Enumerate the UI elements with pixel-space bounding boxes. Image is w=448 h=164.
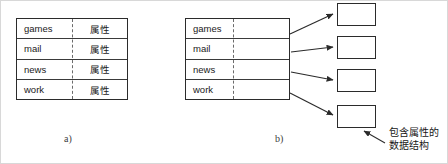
table-b-key-cell: news: [186, 60, 233, 79]
table-row: mail 属性: [17, 39, 127, 59]
data-structure-box: [337, 105, 376, 128]
annotation-line-2: 数据结构: [389, 140, 439, 153]
arrow-row-mail-to-box: [291, 47, 333, 52]
table-b-value-cell: [233, 60, 289, 79]
table-a-value-cell: 属性: [72, 80, 127, 100]
table-row: games: [186, 19, 289, 39]
table-row: mail: [186, 39, 289, 59]
table-a-value-cell: 属性: [72, 19, 127, 38]
annotation-line-1: 包含属性的: [389, 127, 439, 140]
table-b-value-cell: [233, 39, 289, 58]
table-a-value-cell: 属性: [72, 39, 127, 58]
annotation-data-structure: 包含属性的 数据结构: [389, 127, 439, 152]
data-structure-box: [337, 69, 376, 92]
attribute-table-a: games 属性 mail 属性 news 属性 work 属性: [16, 18, 128, 100]
attribute-table-b: games mail news work: [185, 18, 290, 100]
table-a-key-cell: news: [17, 60, 72, 79]
table-b-key-cell: work: [186, 80, 233, 100]
table-b-key-cell: games: [186, 19, 233, 38]
data-structure-box: [337, 3, 376, 26]
caption-b: b): [275, 133, 283, 144]
arrow-row-games-to-box: [290, 14, 333, 34]
table-a-key-cell: games: [17, 19, 72, 38]
table-a-key-cell: mail: [17, 39, 72, 58]
table-a-key-cell: work: [17, 80, 72, 100]
table-b-value-cell: [233, 19, 289, 38]
table-row: work: [186, 80, 289, 100]
data-structure-box: [337, 36, 376, 59]
arrow-row-news-to-box: [291, 72, 333, 80]
table-row: news 属性: [17, 60, 127, 80]
table-b-key-cell: mail: [186, 39, 233, 58]
arrow-row-work-to-box: [290, 93, 333, 115]
table-a-value-cell: 属性: [72, 60, 127, 79]
table-row: news: [186, 60, 289, 80]
table-row: work 属性: [17, 80, 127, 100]
table-b-value-cell: [233, 80, 289, 100]
arrow-annotation-to-box: [364, 131, 385, 143]
table-row: games 属性: [17, 19, 127, 39]
caption-a: a): [64, 133, 72, 144]
figure-root: games 属性 mail 属性 news 属性 work 属性 a) game…: [0, 0, 448, 164]
